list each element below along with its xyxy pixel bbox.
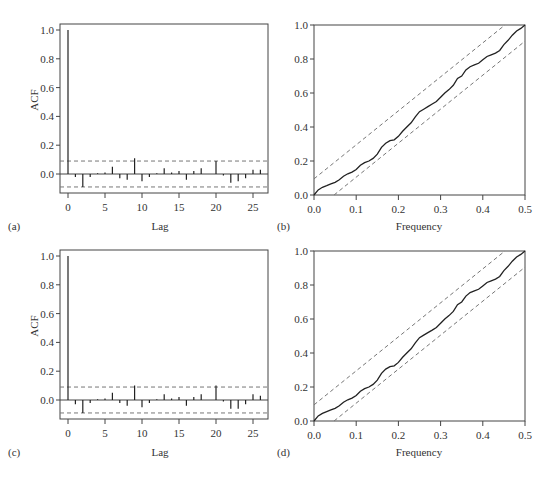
upper-band-line bbox=[314, 25, 505, 179]
plot-frame bbox=[60, 250, 268, 419]
y-tick-label: 0.4 bbox=[294, 347, 308, 359]
y-tick-label: 0.8 bbox=[40, 279, 54, 291]
x-tick-label: 20 bbox=[211, 201, 223, 213]
x-tick-label: 10 bbox=[137, 201, 149, 213]
x-tick-label: 0.3 bbox=[434, 429, 448, 441]
y-tick-label: 0.6 bbox=[294, 87, 308, 99]
cumulative-periodogram-line bbox=[314, 25, 525, 195]
x-tick-label: 0.4 bbox=[476, 429, 490, 441]
panel-tag: (a) bbox=[8, 220, 21, 233]
y-tick-label: 0.0 bbox=[294, 189, 308, 201]
x-axis-label: Frequency bbox=[396, 220, 443, 232]
x-axis-label: Frequency bbox=[396, 446, 443, 458]
y-tick-label: 1.0 bbox=[294, 245, 308, 257]
y-tick-label: 0.6 bbox=[40, 308, 54, 320]
panel-tag: (d) bbox=[277, 446, 290, 459]
y-tick-label: 0.2 bbox=[294, 381, 308, 393]
x-tick-label: 0 bbox=[65, 427, 71, 439]
cumulative-periodogram-line bbox=[314, 251, 525, 421]
x-tick-label: 0.1 bbox=[349, 203, 363, 215]
y-tick-label: 0.6 bbox=[40, 82, 54, 94]
y-tick-label: 0.0 bbox=[40, 394, 54, 406]
x-tick-label: 0.0 bbox=[307, 429, 321, 441]
y-tick-label: 0.0 bbox=[294, 415, 308, 427]
x-tick-label: 0.2 bbox=[392, 429, 406, 441]
x-tick-label: 5 bbox=[102, 201, 108, 213]
acf-panel-c: 0.00.20.40.60.81.00510152025ACFLag(c) bbox=[8, 250, 268, 459]
x-tick-label: 0.2 bbox=[392, 203, 406, 215]
x-tick-label: 10 bbox=[137, 427, 149, 439]
y-tick-label: 0.8 bbox=[40, 53, 54, 65]
plot-frame bbox=[314, 25, 525, 195]
x-axis-label: Lag bbox=[151, 220, 169, 232]
cumulative-periodogram-panel-b: 0.00.20.40.60.81.00.00.10.20.30.40.5Freq… bbox=[277, 19, 532, 233]
figure-canvas: 0.00.20.40.60.81.00510152025ACFLag(a) 0.… bbox=[0, 0, 547, 478]
lower-band-line bbox=[334, 41, 525, 195]
x-tick-label: 0.5 bbox=[518, 203, 532, 215]
x-tick-label: 0.1 bbox=[349, 429, 363, 441]
y-tick-label: 0.4 bbox=[40, 110, 54, 122]
y-tick-label: 0.4 bbox=[40, 336, 54, 348]
x-tick-label: 0.0 bbox=[307, 203, 321, 215]
y-tick-label: 0.2 bbox=[294, 155, 308, 167]
lower-band-line bbox=[334, 267, 525, 421]
y-tick-label: 1.0 bbox=[294, 19, 308, 31]
x-tick-label: 15 bbox=[174, 201, 186, 213]
x-tick-label: 0 bbox=[65, 201, 71, 213]
upper-band-line bbox=[314, 251, 505, 405]
y-tick-label: 1.0 bbox=[40, 250, 54, 262]
y-axis-label: ACF bbox=[28, 315, 40, 336]
y-tick-label: 0.6 bbox=[294, 313, 308, 325]
x-tick-label: 0.4 bbox=[476, 203, 490, 215]
panel-tag: (b) bbox=[277, 220, 290, 233]
cumulative-periodogram-panel-d: 0.00.20.40.60.81.00.00.10.20.30.40.5Freq… bbox=[277, 245, 532, 459]
x-tick-label: 0.5 bbox=[518, 429, 532, 441]
y-tick-label: 0.2 bbox=[40, 139, 54, 151]
plot-frame bbox=[314, 251, 525, 421]
y-tick-label: 0.8 bbox=[294, 279, 308, 291]
plot-frame bbox=[60, 24, 268, 193]
x-axis-label: Lag bbox=[151, 446, 169, 458]
y-tick-label: 0.0 bbox=[40, 168, 54, 180]
y-tick-label: 0.2 bbox=[40, 365, 54, 377]
panel-tag: (c) bbox=[8, 446, 21, 459]
x-tick-label: 25 bbox=[248, 427, 260, 439]
x-tick-label: 15 bbox=[174, 427, 186, 439]
x-tick-label: 20 bbox=[211, 427, 223, 439]
x-tick-label: 0.3 bbox=[434, 203, 448, 215]
y-axis-label: ACF bbox=[28, 89, 40, 110]
y-tick-label: 1.0 bbox=[40, 24, 54, 36]
acf-panel-a: 0.00.20.40.60.81.00510152025ACFLag(a) bbox=[8, 24, 268, 233]
y-tick-label: 0.4 bbox=[294, 121, 308, 133]
y-tick-label: 0.8 bbox=[294, 53, 308, 65]
x-tick-label: 5 bbox=[102, 427, 108, 439]
x-tick-label: 25 bbox=[248, 201, 260, 213]
